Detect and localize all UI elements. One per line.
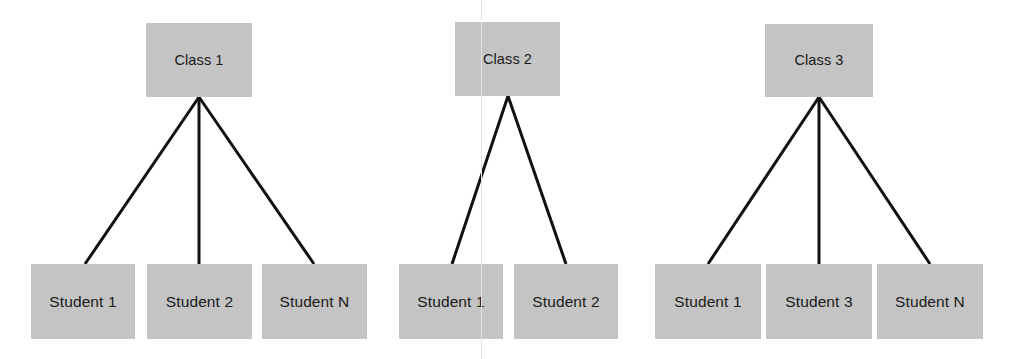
edge-group-3-child-3 [819,97,930,264]
student-node-3-1[interactable]: Student 1 [655,264,761,339]
student-node-2-1[interactable]: Student 1 [399,264,503,339]
class-node-1[interactable]: Class 1 [146,23,252,97]
edge-group-2-child-2 [508,96,566,264]
edge-group-1-child-1 [85,97,199,264]
student-node-1-2[interactable]: Student 2 [147,264,252,339]
diagram-canvas: Class 1Student 1Student 2Student NClass … [0,0,1015,359]
student-node-1-1[interactable]: Student 1 [31,264,135,339]
student-node-3-2[interactable]: Student 3 [766,264,872,339]
student-node-1-3[interactable]: Student N [262,264,367,339]
class-node-3[interactable]: Class 3 [765,24,873,97]
edge-group-3-child-1 [708,97,819,264]
student-node-3-3[interactable]: Student N [877,264,983,339]
class-node-2[interactable]: Class 2 [455,22,560,96]
student-node-2-2[interactable]: Student 2 [514,264,618,339]
edge-group-1-child-3 [199,97,314,264]
edge-group-2-child-1 [452,96,508,264]
